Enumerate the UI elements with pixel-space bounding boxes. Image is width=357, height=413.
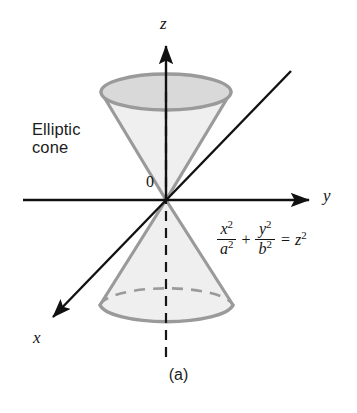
figure-canvas	[0, 0, 357, 413]
elliptic-cone-figure: z y x 0 Elliptic cone (a) x2 a2 + y2 b2 …	[0, 0, 357, 413]
